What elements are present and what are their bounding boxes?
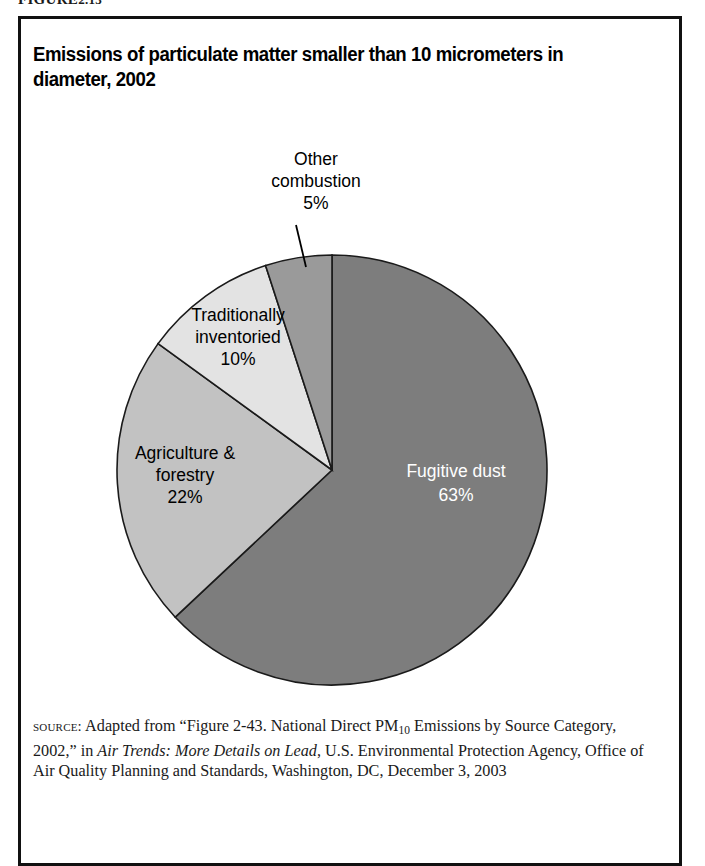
source-text-1: Adapted from “Figure 2-43. National Dire… (82, 717, 399, 735)
pie-chart: Othercombustion5%Traditionallyinventorie… (18, 120, 682, 700)
pie-label-other-combustion-line2: combustion (271, 171, 361, 191)
pie-label-fugitive-dust-line2: 63% (438, 485, 473, 505)
source-note: source: Adapted from “Figure 2-43. Natio… (33, 716, 663, 781)
source-title-italic: Air Trends: More Details on Lead (97, 742, 317, 760)
pie-label-traditionally-inventoried-line1: Traditionally (191, 305, 285, 325)
figure-caption-prefix: FIGURE (18, 0, 78, 7)
chart-title: Emissions of particulate matter smaller … (33, 42, 587, 92)
pie-chart-svg: Othercombustion5%Traditionallyinventorie… (18, 120, 682, 700)
pie-label-agriculture-forestry-line1: Agriculture & (135, 443, 236, 463)
pie-label-agriculture-forestry-line2: forestry (156, 465, 215, 485)
pie-label-fugitive-dust-line1: Fugitive dust (406, 461, 505, 481)
pie-label-traditionally-inventoried-line3: 10% (220, 349, 255, 369)
figure-caption: FIGURE2.13 (18, 0, 102, 8)
pie-label-traditionally-inventoried-line2: inventoried (195, 327, 281, 347)
source-subscript-pm10: 10 (398, 724, 410, 736)
pie-label-agriculture-forestry-line3: 22% (167, 487, 202, 507)
figure-caption-number: 2.13 (78, 0, 102, 7)
pie-label-other-combustion-line3: 5% (303, 193, 328, 213)
pie-label-other-combustion-line1: Other (294, 149, 338, 169)
source-label: source: (33, 718, 82, 734)
